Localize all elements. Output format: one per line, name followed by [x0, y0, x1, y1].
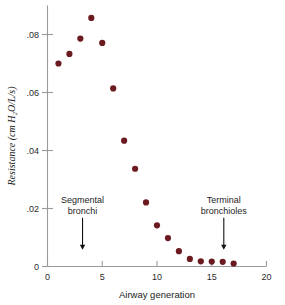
data-point [121, 138, 127, 144]
x-tick-label-10: 10 [152, 272, 162, 282]
data-point [198, 258, 204, 264]
annotation-layer: SegmentalbronchiTerminalbronchioles [61, 195, 247, 249]
y-tick-label-04: .04 [26, 146, 39, 156]
arrow-head-icon [221, 245, 226, 250]
annotation-segmental-bronchi: Segmentalbronchi [61, 195, 104, 249]
data-point [110, 85, 116, 91]
annotation-line: bronchioles [201, 206, 248, 216]
data-point [165, 235, 171, 241]
x-tick-label-5: 5 [100, 272, 105, 282]
data-point [99, 40, 105, 46]
data-point [77, 35, 83, 41]
data-point [66, 51, 72, 57]
data-point [209, 258, 215, 264]
annotation-terminal-bronchioles: Terminalbronchioles [201, 195, 248, 249]
data-point [143, 199, 149, 205]
data-point [88, 15, 94, 21]
data-point [55, 60, 61, 66]
data-point [231, 261, 237, 267]
airway-resistance-chart: 0 .02 .04 .06 .08 0 5 10 15 20 Airway ge… [0, 0, 285, 305]
annotation-line: bronchi [68, 206, 98, 216]
data-point [220, 259, 226, 265]
annotation-line: Terminal [207, 195, 241, 205]
data-point [132, 166, 138, 172]
x-tick-label-0: 0 [45, 272, 50, 282]
annotation-line: Segmental [61, 195, 104, 205]
data-point [154, 222, 160, 228]
y-axis-title: Resistance (cm H₂O/L/s) [6, 86, 18, 187]
data-point [187, 256, 193, 262]
y-tick-label-06: .06 [26, 88, 39, 98]
y-tick-label-02: .02 [26, 204, 39, 214]
y-tick-label-0: 0 [34, 262, 39, 272]
x-tick-label-15: 15 [207, 272, 217, 282]
arrow-head-icon [80, 245, 85, 250]
y-tick-label-08: .08 [26, 30, 39, 40]
data-point [176, 248, 182, 254]
x-axis-title: Airway generation [119, 289, 195, 300]
x-tick-label-20: 20 [261, 272, 271, 282]
